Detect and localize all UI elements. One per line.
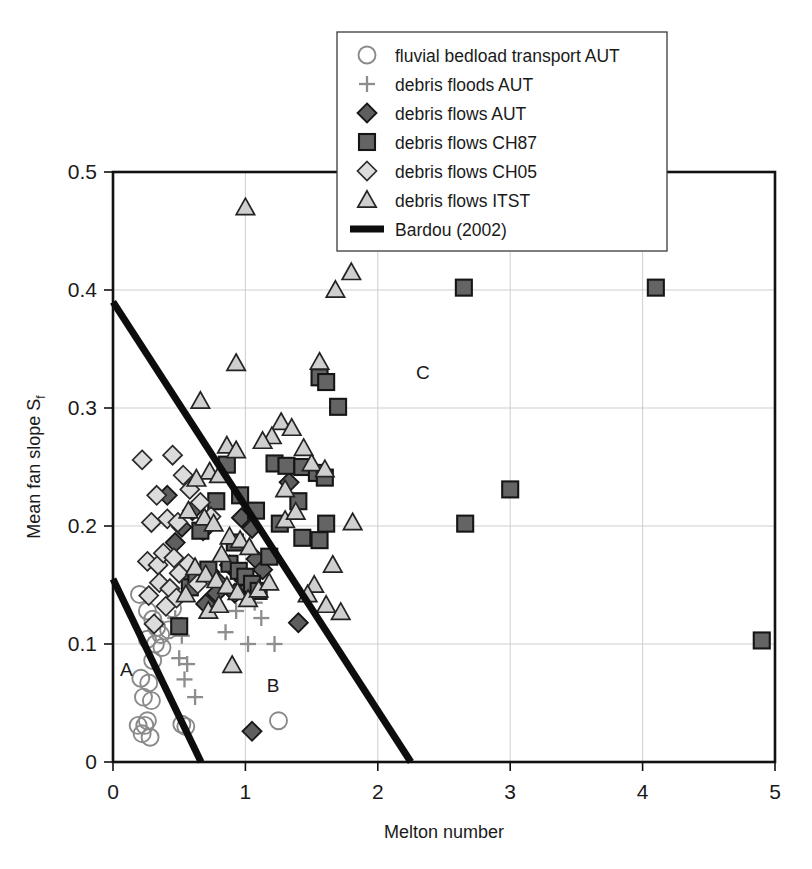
marker-square-dark bbox=[648, 280, 664, 296]
bardou-line bbox=[113, 302, 411, 762]
marker-diamond-dark bbox=[289, 613, 308, 632]
marker-triangle-light bbox=[236, 198, 254, 214]
scatter-plot: ABC 012345 00.10.20.30.40.5 Melton numbe… bbox=[0, 0, 812, 869]
x-tick-label: 3 bbox=[504, 780, 516, 803]
x-axis-title: Melton number bbox=[384, 822, 504, 842]
marker-square-dark bbox=[754, 632, 770, 648]
x-tick-labels: 012345 bbox=[107, 780, 781, 803]
legend-item-label: debris flows CH05 bbox=[395, 162, 537, 182]
y-axis-title-main: Mean fan slope S bbox=[24, 399, 44, 539]
marker-plus bbox=[267, 636, 283, 652]
legend[interactable]: fluvial bedload transport AUTdebris floo… bbox=[337, 32, 667, 251]
marker-triangle-light bbox=[191, 392, 209, 408]
marker-triangle-light bbox=[342, 263, 360, 279]
marker-square-dark bbox=[171, 618, 187, 634]
marker-diamond-light bbox=[133, 450, 152, 469]
y-tick-label: 0.2 bbox=[68, 514, 97, 537]
marker-triangle-light bbox=[324, 556, 342, 572]
marker-plus bbox=[253, 610, 269, 626]
x-tick-label: 4 bbox=[637, 780, 649, 803]
marker-square-dark bbox=[294, 530, 310, 546]
marker-diamond-light bbox=[142, 513, 161, 532]
region-label-b: B bbox=[267, 675, 280, 696]
marker-triangle-light bbox=[326, 281, 344, 297]
marker-triangle-light bbox=[294, 439, 312, 455]
figure-root: ABC 012345 00.10.20.30.40.5 Melton numbe… bbox=[0, 0, 812, 869]
y-axis-title: Mean fan slope Sf bbox=[24, 395, 48, 539]
y-tick-label: 0.4 bbox=[68, 278, 98, 301]
y-tick-label: 0.1 bbox=[68, 632, 97, 655]
marker-plus bbox=[240, 636, 256, 652]
marker-square-dark bbox=[502, 481, 518, 497]
legend-item-fluvial_bedload_AUT[interactable]: fluvial bedload transport AUT bbox=[359, 46, 621, 66]
marker-triangle-light bbox=[317, 596, 335, 612]
legend-item-label: debris flows CH87 bbox=[395, 133, 537, 153]
region-label-a: A bbox=[120, 659, 133, 680]
x-tick-label: 1 bbox=[240, 780, 252, 803]
marker-plus bbox=[218, 624, 234, 640]
y-tick-label: 0.3 bbox=[68, 396, 97, 419]
legend-item-label: debris flows ITST bbox=[395, 191, 530, 211]
marker-plus bbox=[176, 671, 192, 687]
y-tick-labels: 00.10.20.30.40.5 bbox=[68, 160, 98, 773]
legend-item-label: Bardou (2002) bbox=[395, 220, 507, 240]
marker-square-dark bbox=[312, 532, 328, 548]
svg-text:Mean fan slope Sf: Mean fan slope Sf bbox=[24, 395, 48, 539]
marker-triangle-light bbox=[223, 656, 241, 672]
marker-square-dark bbox=[278, 458, 294, 474]
x-tick-label: 0 bbox=[107, 780, 119, 803]
marker-diamond-light bbox=[163, 446, 182, 465]
bardou-lines-layer bbox=[113, 302, 411, 762]
marker-square-dark bbox=[318, 516, 334, 532]
marker-circle bbox=[270, 712, 287, 729]
marker-plus bbox=[187, 689, 203, 705]
marker-triangle-light bbox=[343, 513, 361, 529]
legend-item-label: debris flows AUT bbox=[395, 104, 527, 124]
marker-square-dark bbox=[457, 516, 473, 532]
legend-item-label: fluvial bedload transport AUT bbox=[395, 46, 620, 66]
x-tick-label: 2 bbox=[372, 780, 384, 803]
marker-square-dark bbox=[330, 399, 346, 415]
marker-triangle-light bbox=[227, 354, 245, 370]
legend-item-label: debris floods AUT bbox=[395, 75, 533, 95]
y-tick-label: 0 bbox=[85, 750, 97, 773]
y-axis-title-subscript: f bbox=[34, 395, 48, 399]
marker-square-dark bbox=[318, 374, 334, 390]
region-label-c: C bbox=[416, 362, 430, 383]
x-tick-label: 5 bbox=[769, 780, 781, 803]
marker-triangle-light bbox=[310, 353, 328, 369]
marker-square-dark bbox=[456, 280, 472, 296]
marker-square-dark bbox=[359, 134, 375, 150]
y-tick-label: 0.5 bbox=[68, 160, 97, 183]
